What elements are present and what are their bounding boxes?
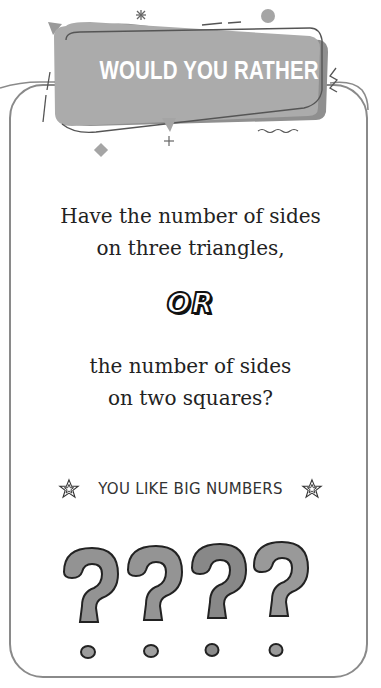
question-marks-illustration (60, 538, 330, 668)
hint-text: YOU LIKE BIG NUMBERS (98, 480, 283, 498)
star-icon (58, 478, 80, 500)
hint-row: YOU LIKE BIG NUMBERS (0, 478, 381, 500)
header-banner (0, 0, 381, 170)
option-a-line2: on three triangles, (0, 232, 381, 264)
question-mark-icon (192, 544, 246, 656)
option-b-line1: the number of sides (0, 350, 381, 382)
page-title: WOULD YOU RATHER (99, 56, 276, 85)
question-mark-icon (64, 548, 118, 658)
plus-decoration-icon (164, 136, 174, 146)
star-icon (301, 478, 323, 500)
question-mark-icon (254, 542, 308, 656)
diamond-decoration-icon (94, 143, 108, 157)
or-separator: OR (0, 287, 381, 320)
wave-decoration-icon (258, 130, 298, 133)
option-a: Have the number of sides on three triang… (0, 200, 381, 264)
option-a-line1: Have the number of sides (0, 200, 381, 232)
option-b: the number of sides on two squares? (0, 350, 381, 414)
question-mark-icon (128, 546, 182, 657)
zigzag-decoration-icon (330, 68, 337, 92)
option-b-line2: on two squares? (0, 382, 381, 414)
asterisk-decoration-icon (136, 10, 146, 20)
circle-decoration-icon (261, 9, 275, 23)
